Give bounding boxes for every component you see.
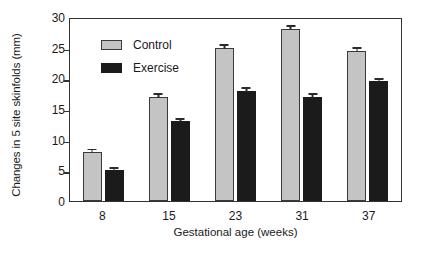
y-tick-label: 15	[52, 104, 65, 116]
chart-figure: Changes in 5 site skinfolds (mm) 0510152…	[0, 0, 442, 256]
error-bar	[154, 93, 163, 97]
y-axis-title: Changes in 5 site skinfolds (mm)	[7, 20, 25, 210]
bar-exercise-8	[105, 170, 124, 201]
legend-item-exercise: Exercise	[101, 62, 179, 74]
bar-group	[281, 19, 322, 201]
error-bar-stem	[179, 120, 181, 122]
x-tick-label: 31	[269, 208, 336, 224]
y-tick-label: 30	[52, 12, 65, 24]
error-bar-stem	[312, 95, 314, 97]
error-bar-stem	[157, 95, 159, 97]
x-axis-tick-labels: 815233137	[69, 208, 402, 224]
error-bar-stem	[290, 27, 292, 30]
error-bar	[374, 78, 383, 82]
y-tick-label: 10	[52, 135, 65, 147]
error-bar	[242, 87, 251, 91]
error-bar	[110, 167, 119, 171]
x-tick-label: 37	[335, 208, 402, 224]
legend-label-control: Control	[133, 39, 172, 51]
bar-exercise-15	[171, 121, 190, 201]
error-bar-stem	[246, 89, 248, 91]
bar-control-37	[347, 51, 366, 201]
error-bar	[286, 25, 295, 30]
y-tick-mark	[64, 172, 70, 173]
error-bar-stem	[91, 150, 93, 152]
bar-group	[347, 19, 388, 201]
plot-area: Control Exercise	[69, 18, 402, 202]
bar-wrapper	[347, 19, 366, 201]
error-bar	[352, 47, 361, 52]
error-bar-stem	[378, 80, 380, 82]
chart-legend: Control Exercise	[101, 39, 179, 74]
error-bar	[220, 44, 229, 49]
y-tick-mark	[64, 50, 70, 51]
y-tick-label: 5	[58, 165, 65, 177]
y-tick-label: 0	[58, 196, 65, 208]
legend-swatch-control	[101, 40, 122, 50]
y-tick-mark	[64, 142, 70, 143]
error-bar	[176, 118, 185, 122]
x-tick-label: 23	[202, 208, 269, 224]
bar-wrapper	[281, 19, 300, 201]
bar-exercise-23	[237, 91, 256, 201]
x-axis-title: Gestational age (weeks)	[69, 226, 402, 238]
error-bar-stem	[113, 169, 115, 171]
bar-control-8	[83, 152, 102, 201]
bar-exercise-37	[369, 81, 388, 201]
y-tick-mark	[64, 111, 70, 112]
x-tick-label: 15	[136, 208, 203, 224]
error-bar-stem	[224, 46, 226, 49]
error-bar	[88, 149, 97, 153]
bar-wrapper	[237, 19, 256, 201]
bar-group	[215, 19, 256, 201]
bar-wrapper	[303, 19, 322, 201]
bar-wrapper	[369, 19, 388, 201]
error-bar-stem	[356, 49, 358, 52]
bar-control-31	[281, 29, 300, 201]
y-tick-label: 20	[52, 73, 65, 85]
legend-item-control: Control	[101, 39, 179, 51]
legend-swatch-exercise	[101, 63, 122, 73]
y-axis-tick-labels: 051015202530	[41, 18, 65, 202]
x-tick-label: 8	[69, 208, 136, 224]
legend-label-exercise: Exercise	[133, 62, 179, 74]
error-bar	[308, 93, 317, 97]
bar-wrapper	[215, 19, 234, 201]
bar-control-23	[215, 48, 234, 201]
bar-control-15	[149, 97, 168, 201]
y-tick-label: 25	[52, 43, 65, 55]
bar-wrapper	[83, 19, 102, 201]
bar-exercise-31	[303, 97, 322, 201]
y-tick-mark	[64, 80, 70, 81]
